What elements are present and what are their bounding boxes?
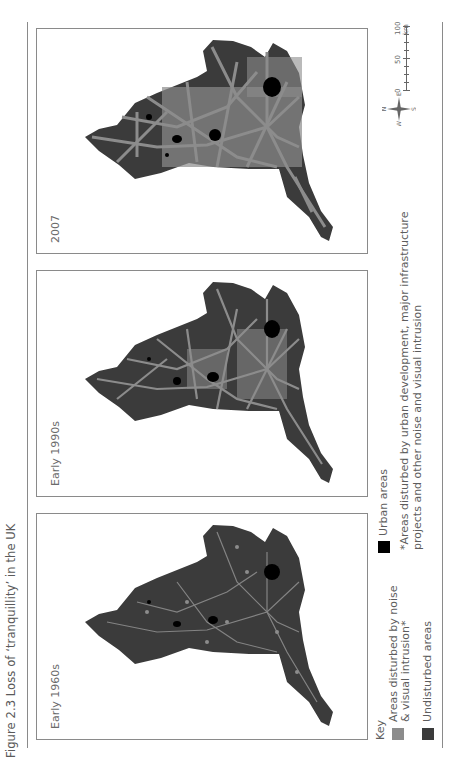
top-rule (27, 22, 28, 748)
legend-label-undisturbed: Undisturbed areas (422, 621, 434, 722)
uk-map-2007 (37, 27, 369, 253)
legend-swatch-urban (378, 541, 390, 553)
legend-label-disturbed: Areas disturbed by noise & visual intrus… (388, 585, 412, 722)
panel-label-1960s: Early 1960s (49, 664, 62, 729)
figure-title: Figure 2.3 Loss of ‘tranquillity’ in the… (4, 524, 18, 758)
uk-map-1960s (37, 512, 369, 739)
panel-label-1990s: Early 1990s (49, 421, 62, 486)
svg-text:W: W (395, 121, 402, 126)
legend-swatch-undisturbed (422, 728, 434, 740)
legend-footnote: *Areas disturbed by urban development, m… (398, 212, 424, 550)
scale-tick-50: 50 (394, 55, 402, 64)
footnote-line2: projects and other noise and visual intr… (411, 212, 424, 550)
figure-page: Figure 2.3 Loss of ‘tranquillity’ in the… (0, 0, 465, 768)
legend-title: Key (374, 720, 387, 740)
map-panel-2007: 2007 (36, 28, 368, 254)
legend-label-disturbed-line2: & visual intrusion* (400, 585, 412, 722)
panel-label-2007: 2007 (49, 215, 62, 243)
scale-bar: 0 50 100 km (392, 13, 416, 93)
svg-text:S: S (410, 107, 416, 111)
legend-label-urban: Urban areas (378, 469, 390, 536)
scale-tick-100: 100 km (394, 13, 410, 35)
svg-text:N: N (382, 107, 387, 112)
uk-map-1990s (37, 269, 369, 496)
legend-swatch-disturbed (392, 728, 404, 740)
scale-tick-0: 0 (394, 89, 402, 93)
map-panel-1960s: Early 1960s (36, 513, 368, 740)
compass-rose-icon: N S E W (382, 92, 416, 126)
map-panel-1990s: Early 1990s (36, 270, 368, 497)
legend: Key Areas disturbed by noise & visual in… (372, 22, 440, 748)
bottom-rule (442, 22, 443, 748)
footnote-line1: *Areas disturbed by urban development, m… (398, 212, 411, 550)
